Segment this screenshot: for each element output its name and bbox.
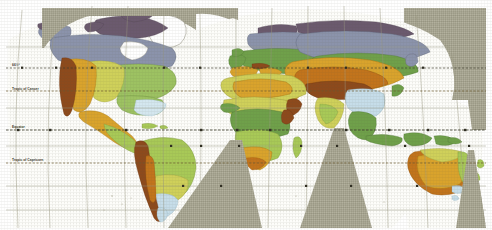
world-climate-map-figure: 66½° Tropic of Cancer Equator Tropic of … — [0, 0, 492, 230]
latitude-label-equator: Equator — [12, 125, 25, 129]
map-canvas: 66½° Tropic of Cancer Equator Tropic of … — [0, 0, 492, 230]
latitude-label-arctic-circle: 66½° — [12, 63, 21, 67]
latitude-label-tropic-of-cancer: Tropic of Cancer — [12, 87, 39, 91]
latitude-label-tropic-of-capricorn: Tropic of Capricorn — [12, 158, 43, 162]
